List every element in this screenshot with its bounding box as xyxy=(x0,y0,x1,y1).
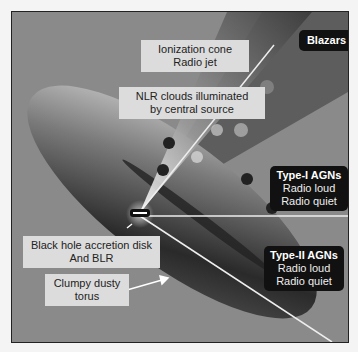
torus-text-2: torus xyxy=(51,290,123,303)
torus-text-1: Clumpy dusty xyxy=(51,277,123,290)
type1-title: Type-I AGNs xyxy=(276,169,342,182)
radio-jet-text: Radio jet xyxy=(147,56,243,69)
nlr-text-1: NLR clouds illuminated xyxy=(125,90,259,103)
type2-radio-loud: Radio loud xyxy=(270,262,338,275)
nlr-text-2: by central source xyxy=(125,103,259,116)
black-hole-text-2: And BLR xyxy=(29,252,154,265)
ionization-cone-text: Ionization cone xyxy=(147,43,243,56)
type2-label: Type-II AGNs Radio loud Radio quiet xyxy=(264,246,344,291)
torus-label: Clumpy dusty torus xyxy=(45,274,129,306)
blazars-text: Blazars xyxy=(302,34,349,47)
type1-label: Type-I AGNs Radio loud Radio quiet xyxy=(270,166,348,211)
black-hole-label: Black hole accretion disk And BLR xyxy=(23,236,160,268)
nlr-clouds-label: NLR clouds illuminated by central source xyxy=(119,87,265,119)
type1-radio-loud: Radio loud xyxy=(276,182,342,195)
blazars-label: Blazars xyxy=(299,30,349,51)
agn-diagram: Ionization cone Radio jet NLR clouds ill… xyxy=(11,11,349,343)
type1-radio-quiet: Radio quiet xyxy=(276,195,342,208)
type2-radio-quiet: Radio quiet xyxy=(270,275,338,288)
ionization-cone-label: Ionization cone Radio jet xyxy=(141,40,249,72)
black-hole-text-1: Black hole accretion disk xyxy=(29,239,154,252)
type2-title: Type-II AGNs xyxy=(270,249,338,262)
